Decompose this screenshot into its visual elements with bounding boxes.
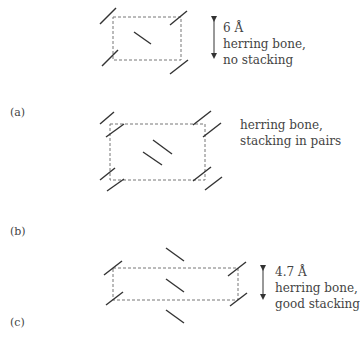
panel-b-molecule-center [143,152,162,165]
panel-a-caption: 6 Å herring bone, no stacking [223,20,306,68]
panel-a-description-line: herring bone, [223,36,306,52]
panel-a-molecule-center [134,32,151,44]
panel-a-molecule [170,11,187,25]
panel-a-label: (a) [10,106,25,119]
panel-b-molecule [100,168,115,180]
panel-a-description-line: no stacking [223,52,306,68]
panel-b-molecule [107,179,124,191]
panel-c-unit-cell [113,268,238,300]
panel-c-molecule-center [166,279,184,292]
panel-b-drawing [100,111,222,191]
panel-c-description-line: good stacking [275,296,360,312]
panel-a-molecule [102,50,118,66]
panel-c-label: (c) [10,316,25,329]
panel-b-molecule [205,177,222,190]
panel-a-drawing [100,8,214,74]
panel-a-molecule [100,8,116,24]
panel-c-molecule [106,292,123,305]
panel-c-distance: 4.7 Å [275,264,360,280]
panel-c-molecule-center [166,310,184,323]
panel-b-molecule [106,124,124,137]
panel-a-distance: 6 Å [223,20,306,36]
panel-b-caption: herring bone, stacking in pairs [240,117,341,149]
panel-b-molecule [193,111,211,125]
panel-c-description-line: herring bone, [275,280,360,296]
panel-b-description-line: stacking in pairs [240,133,341,149]
panel-b-molecule-center [153,140,172,154]
panel-c-molecule [228,262,246,276]
panel-b-molecule [100,112,114,124]
panel-b-description-line: herring bone, [240,117,341,133]
panel-b-label: (b) [10,225,26,238]
panel-b-unit-cell [110,124,205,180]
panel-c-molecule-center [166,248,184,261]
panel-c-drawing [104,248,263,323]
panel-c-caption: 4.7 Å herring bone, good stacking [275,264,360,312]
panel-b-molecule [193,167,211,181]
panel-b-molecule [203,123,221,137]
panel-a-molecule [170,60,188,74]
